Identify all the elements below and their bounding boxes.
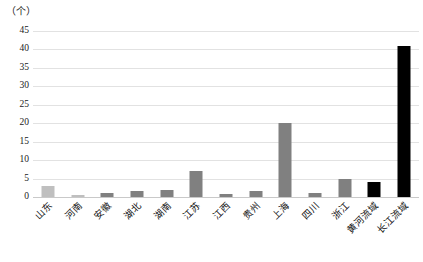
x-tick-label: 浙江 [331, 201, 352, 222]
x-tick-label: 四川 [301, 201, 322, 222]
x-tick-label: 江苏 [182, 201, 203, 222]
plot-area [33, 31, 419, 197]
y-tick-label: 5 [0, 174, 29, 184]
bar-slot [211, 31, 241, 197]
bar-slot [300, 31, 330, 197]
bar[interactable] [309, 193, 322, 197]
bar-slot [152, 31, 182, 197]
x-label-slot: 江苏 [181, 199, 211, 261]
y-axis-tick-labels: 051015202530354045 [0, 31, 29, 197]
bar[interactable] [249, 191, 262, 197]
bar[interactable] [279, 123, 292, 197]
x-label-slot: 湖南 [152, 199, 182, 261]
gridline [33, 197, 419, 198]
bar[interactable] [368, 182, 381, 197]
y-tick-label: 45 [0, 26, 29, 36]
y-tick-label: 15 [0, 137, 29, 147]
x-tick-label: 安徽 [93, 201, 114, 222]
x-tick-label: 江西 [212, 201, 233, 222]
y-tick-label: 40 [0, 45, 29, 55]
y-tick-label: 0 [0, 192, 29, 202]
x-label-slot: 安徽 [92, 199, 122, 261]
bar[interactable] [101, 193, 114, 197]
x-tick-label: 河南 [63, 201, 84, 222]
bar-slot [33, 31, 63, 197]
bar[interactable] [71, 195, 84, 197]
bar-slot [389, 31, 419, 197]
bar-slot [330, 31, 360, 197]
bar-slot [92, 31, 122, 197]
x-tick-label: 湖北 [123, 201, 144, 222]
bar[interactable] [130, 191, 143, 197]
bar[interactable] [398, 46, 411, 197]
x-label-slot: 长江流域 [389, 199, 419, 261]
bar-slot [241, 31, 271, 197]
x-label-slot: 上海 [271, 199, 301, 261]
bar-slot [271, 31, 301, 197]
bar-slot [63, 31, 93, 197]
bar-slot [181, 31, 211, 197]
x-tick-label: 上海 [271, 201, 292, 222]
bar[interactable] [190, 171, 203, 197]
bar-slot [360, 31, 390, 197]
x-tick-label: 湖南 [152, 201, 173, 222]
bar[interactable] [41, 186, 54, 197]
x-label-slot: 山东 [33, 199, 63, 261]
x-tick-label: 山东 [34, 201, 55, 222]
bar-series [33, 31, 419, 197]
y-tick-label: 10 [0, 155, 29, 165]
x-tick-label: 贵州 [242, 201, 263, 222]
y-tick-label: 35 [0, 63, 29, 73]
bar[interactable] [338, 179, 351, 197]
x-axis-tick-labels: 山东河南安徽湖北湖南江苏江西贵州上海四川浙江黄河流域长江流域 [33, 199, 419, 261]
y-tick-label: 30 [0, 82, 29, 92]
y-tick-label: 20 [0, 118, 29, 128]
x-label-slot: 四川 [300, 199, 330, 261]
x-label-slot: 江西 [211, 199, 241, 261]
bar-chart: （个） 051015202530354045 山东河南安徽湖北湖南江苏江西贵州上… [0, 0, 423, 262]
bar[interactable] [160, 190, 173, 197]
bar-slot [122, 31, 152, 197]
bar[interactable] [219, 194, 232, 197]
x-label-slot: 贵州 [241, 199, 271, 261]
x-label-slot: 湖北 [122, 199, 152, 261]
y-axis-unit-label: （个） [6, 3, 36, 18]
y-tick-label: 25 [0, 100, 29, 110]
x-label-slot: 河南 [63, 199, 93, 261]
